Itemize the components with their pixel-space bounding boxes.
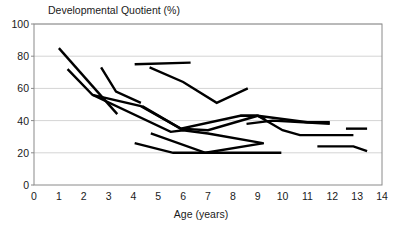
x-tick-label: 4: [124, 191, 142, 201]
data-line: [240, 116, 353, 135]
data-line: [150, 67, 248, 102]
chart-container: Developmental Quotient (%) 020406080100 …: [0, 0, 402, 232]
axis-frame: [34, 24, 382, 185]
x-tick-label: 9: [249, 191, 267, 201]
x-axis-title: Age (years): [0, 208, 402, 220]
y-tick-label: 20: [3, 148, 29, 158]
x-tick-label: 5: [149, 191, 167, 201]
data-line: [68, 69, 263, 143]
data-line: [317, 146, 367, 151]
x-tick-label: 8: [224, 191, 242, 201]
y-tick-label: 80: [3, 51, 29, 61]
data-line: [151, 133, 264, 152]
x-tick-label: 2: [75, 191, 93, 201]
y-tick-label: 100: [3, 19, 29, 29]
x-tick-label: 3: [100, 191, 118, 201]
y-tick-label: 60: [3, 83, 29, 93]
x-tick-label: 1: [50, 191, 68, 201]
x-tick-label: 7: [199, 191, 217, 201]
x-tick-label: 13: [348, 191, 366, 201]
x-tick-label: 6: [174, 191, 192, 201]
x-tick-label: 11: [298, 191, 316, 201]
x-tick-label: 0: [25, 191, 43, 201]
x-tick-label: 14: [373, 191, 391, 201]
y-tick-label: 40: [3, 116, 29, 126]
x-tick-label: 10: [274, 191, 292, 201]
data-series-lines: [59, 48, 367, 153]
x-tick-label: 12: [323, 191, 341, 201]
data-line: [135, 63, 191, 65]
y-tick-label: 0: [3, 180, 29, 190]
data-line: [142, 106, 265, 129]
plot-border: [34, 24, 382, 185]
